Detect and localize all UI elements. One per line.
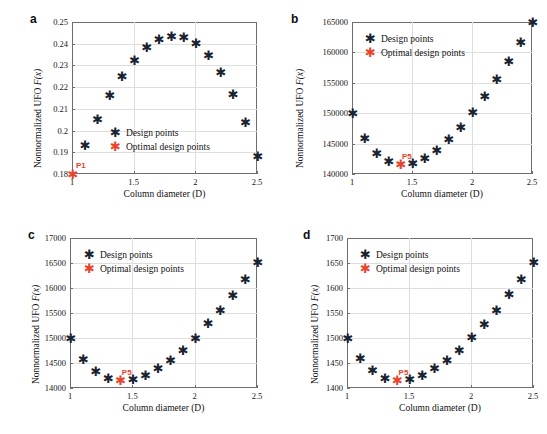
x-axis-label-d: Column diameter (D) — [370, 403, 510, 413]
y-axis-tick-label: 16500 — [22, 258, 66, 268]
y-axis-label-prefix: Nonnormalized UFO — [31, 301, 41, 384]
gridline-horizontal — [347, 363, 533, 364]
y-tickmark — [352, 113, 355, 114]
x-axis-tick-label: 2 — [456, 177, 488, 187]
y-tickmark — [347, 388, 350, 389]
figure-container: a0.180.190.20.210.220.230.240.2511.522.5… — [0, 0, 547, 434]
x-tickmark — [70, 385, 71, 388]
y-tickmark — [72, 87, 75, 88]
x-axis-tick-label: 2 — [179, 391, 211, 401]
legend-label: Optimal design points — [381, 46, 465, 60]
legend-label: Optimal design points — [376, 262, 460, 276]
y-axis-tick-label: 1600 — [299, 283, 343, 293]
y-tickmark — [352, 174, 355, 175]
y-tickmark — [352, 144, 355, 145]
y-axis-tick-label: 1500 — [299, 333, 343, 343]
y-axis-tick-label: 0.2 — [24, 126, 68, 136]
y-tickmark — [352, 83, 355, 84]
legend-label: Design points — [376, 248, 429, 262]
x-tickmark — [409, 385, 410, 388]
x-axis-tick-label: 2.5 — [241, 177, 273, 187]
y-axis-label-d: Nonnormalized UFO F(x) — [310, 285, 320, 384]
legend-label: Optimal design points — [100, 262, 184, 276]
y-tickmark — [347, 313, 350, 314]
x-tickmark — [195, 171, 196, 174]
y-axis-tick-label: 0.25 — [24, 17, 68, 27]
y-tickmark — [72, 65, 75, 66]
optimal-point-label: P5 — [399, 368, 409, 377]
x-tickmark — [352, 171, 353, 174]
y-axis-tick-label: 1450 — [299, 358, 343, 368]
y-axis-tick-label: 1550 — [299, 308, 343, 318]
gridline-horizontal — [72, 109, 257, 110]
y-axis-label-math: F(x) — [295, 69, 305, 85]
gridline-horizontal — [72, 87, 257, 88]
gridline-horizontal — [352, 83, 532, 84]
x-tickmark — [347, 385, 348, 388]
y-tickmark — [72, 109, 75, 110]
optimal-point-icon: ✱ — [84, 262, 95, 276]
optimal-point-label: P1 — [76, 161, 86, 170]
y-axis-tick-label: 0.24 — [24, 39, 68, 49]
y-tickmark — [70, 288, 73, 289]
legend-label: Optimal design points — [126, 140, 210, 154]
x-axis-tick-label: 2 — [179, 177, 211, 187]
y-tickmark — [70, 338, 73, 339]
x-tickmark — [533, 385, 534, 388]
optimal-point-icon: ✱ — [365, 46, 376, 60]
gridline-horizontal — [70, 313, 257, 314]
x-axis-tick-label: 1 — [331, 391, 363, 401]
y-axis-tick-label: 0.21 — [24, 104, 68, 114]
x-tickmark — [257, 171, 258, 174]
y-axis-label-prefix: Nonnormalized UFO — [310, 301, 320, 384]
x-axis-tick-label: 2.5 — [516, 177, 547, 187]
legend-label: Design points — [381, 32, 434, 46]
y-tickmark — [352, 52, 355, 53]
optimal-point-label: P5 — [122, 368, 132, 377]
y-axis-label-b: Nonnormalized UFO F(x) — [295, 69, 305, 168]
y-tickmark — [70, 388, 73, 389]
y-axis-tick-label: 0.22 — [24, 82, 68, 92]
x-axis-tick-label: 1.5 — [118, 177, 150, 187]
y-axis-tick-label: 15000 — [22, 333, 66, 343]
x-axis-tick-label: 1.5 — [393, 391, 425, 401]
x-tickmark — [195, 385, 196, 388]
y-tickmark — [72, 174, 75, 175]
gridline-horizontal — [347, 288, 533, 289]
y-axis-tick-label: 0.19 — [24, 147, 68, 157]
y-axis-label-c: Nonnormalized UFO F(x) — [31, 285, 41, 384]
y-tickmark — [347, 263, 350, 264]
y-axis-tick-label: 150000 — [304, 108, 348, 118]
y-axis-label-prefix: Nonnormalized UFO — [295, 85, 305, 168]
gridline-vertical — [472, 22, 473, 174]
optimal-point-icon: ✱ — [110, 140, 121, 154]
x-axis-tick-label: 2.5 — [517, 391, 547, 401]
x-axis-tick-label: 1 — [54, 391, 86, 401]
y-axis-tick-label: 1700 — [299, 233, 343, 243]
x-axis-tick-label: 1 — [336, 177, 368, 187]
y-axis-tick-label: 165000 — [304, 17, 348, 27]
x-tickmark — [132, 385, 133, 388]
design-point-icon: ✱ — [110, 126, 121, 140]
gridline-horizontal — [352, 113, 532, 114]
y-tickmark — [347, 363, 350, 364]
design-point-icon: ✱ — [84, 248, 95, 262]
x-tickmark — [257, 385, 258, 388]
gridline-horizontal — [347, 338, 533, 339]
y-axis-label-math: F(x) — [31, 285, 41, 301]
gridline-horizontal — [72, 44, 257, 45]
y-axis-tick-label: 17000 — [22, 233, 66, 243]
y-tickmark — [70, 263, 73, 264]
y-tickmark — [347, 288, 350, 289]
y-axis-label-math: F(x) — [33, 69, 43, 85]
x-axis-tick-label: 2.5 — [241, 391, 273, 401]
y-axis-label-a: Nonnormalized UFO F(x) — [33, 69, 43, 168]
gridline-horizontal — [70, 338, 257, 339]
y-axis-tick-label: 0.23 — [24, 60, 68, 70]
x-tickmark — [471, 385, 472, 388]
y-axis-label-math: F(x) — [310, 285, 320, 301]
x-tickmark — [472, 171, 473, 174]
y-axis-tick-label: 160000 — [304, 47, 348, 57]
design-point-icon: ✱ — [365, 32, 376, 46]
legend-label: Design points — [100, 248, 153, 262]
